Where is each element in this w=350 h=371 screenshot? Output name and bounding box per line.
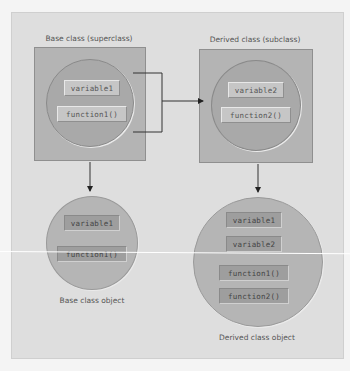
connector-lines xyxy=(0,0,350,371)
inheritance-arrow xyxy=(133,73,203,132)
